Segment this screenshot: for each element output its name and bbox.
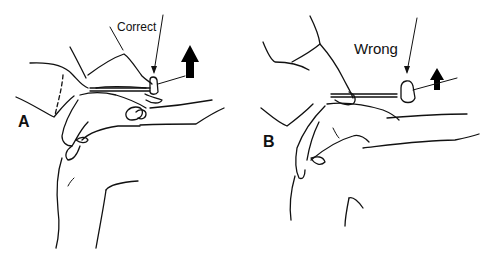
patient-middle-finger [66, 146, 80, 160]
patient-forearm-top [387, 114, 467, 118]
pointer-arrowhead-icon [404, 66, 410, 74]
panel-a-illustration [0, 0, 246, 261]
panel-a-correct: Correct A [0, 0, 246, 261]
pointer-arrowhead-icon [151, 66, 157, 74]
examiner-arm-upper [30, 63, 88, 88]
panel-a-caption: Correct [117, 20, 156, 34]
up-arrow-icon [181, 45, 199, 78]
patient-thumb [82, 126, 140, 140]
pointer-line [407, 18, 417, 72]
patient-knee-crease [106, 181, 138, 190]
patient-hand-top [80, 93, 146, 108]
patient-knuckle-2 [136, 110, 146, 119]
patient-index-finger [296, 106, 325, 179]
patient-thumbnail [311, 157, 325, 165]
patient-knee-crease [349, 198, 363, 208]
examiner-fingertip [145, 94, 162, 103]
hammer-tail-line [158, 76, 185, 84]
patient-forearm-top [150, 100, 212, 108]
examiner-thumb [88, 54, 152, 84]
patient-forearm-bottom [363, 134, 479, 148]
patient-knee-left [56, 158, 62, 248]
patient-leg-right [345, 198, 349, 226]
patient-knee-left [290, 176, 295, 220]
patient-forearm-bottom [140, 108, 224, 125]
hammer-head [401, 81, 415, 103]
examiner-arm-dashed [55, 75, 63, 115]
patient-knee-mark [68, 178, 74, 186]
examiner-sleeve-line [70, 47, 86, 78]
examiner-arm-lower [261, 104, 313, 126]
panel-a-letter: A [18, 113, 30, 131]
patient-knuckle-mark [333, 128, 339, 138]
hammer-head [150, 77, 158, 94]
up-arrow-icon [430, 68, 444, 90]
patient-leg-right [96, 190, 106, 248]
patient-index-finger [62, 100, 88, 146]
panel-b-wrong: Wrong B [247, 0, 493, 261]
panel-b-letter: B [263, 133, 275, 151]
patient-thumb [311, 135, 369, 160]
examiner-thumb [292, 44, 353, 98]
examiner-sleeve-line [310, 16, 320, 44]
panel-b-caption: Wrong [354, 40, 398, 57]
